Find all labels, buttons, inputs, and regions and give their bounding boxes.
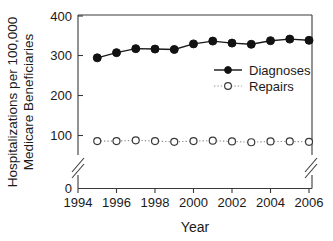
- x-tick-label-1994: 1994: [64, 195, 93, 210]
- y-axis-break-left: [72, 155, 84, 178]
- data-point: [171, 138, 178, 145]
- data-point: [190, 40, 198, 48]
- y-tick-labels: 400 300 200 100 0: [50, 9, 72, 196]
- y-tick-label-0: 0: [65, 181, 72, 196]
- data-point: [306, 138, 313, 145]
- x-tick-label-1998: 1998: [141, 195, 170, 210]
- chart-legend: Diagnoses Repairs: [214, 63, 311, 94]
- data-point: [248, 139, 255, 146]
- data-point: [151, 45, 159, 53]
- data-point: [209, 37, 217, 45]
- x-tick-label-2006: 2006: [295, 195, 324, 210]
- data-point: [113, 49, 121, 57]
- y-tick-label-400: 400: [50, 9, 72, 24]
- data-point: [267, 37, 275, 45]
- data-point: [286, 138, 293, 145]
- y-axis-title: Hospitalizations per 100,000 Medicare Be…: [5, 17, 36, 187]
- legend-label-repairs: Repairs: [249, 79, 294, 94]
- data-point: [113, 138, 120, 145]
- x-tick-label-2000: 2000: [179, 195, 208, 210]
- chart-figure: Hospitalizations per 100,000 Medicare Be…: [0, 0, 333, 241]
- y-tick-label-100: 100: [50, 128, 72, 143]
- y-tick-label-200: 200: [50, 88, 72, 103]
- legend-marker-open-circle: [225, 83, 232, 90]
- data-point: [286, 35, 294, 43]
- y-axis-break-right: [305, 155, 317, 178]
- series-line-diagnoses: [97, 39, 309, 58]
- data-point: [170, 45, 178, 53]
- data-point: [247, 40, 255, 48]
- x-axis-title: Year: [181, 219, 210, 235]
- legend-item-diagnoses: Diagnoses: [214, 63, 311, 78]
- data-point: [132, 137, 139, 144]
- data-point: [305, 36, 313, 44]
- data-point: [132, 45, 140, 53]
- x-tick-label-2002: 2002: [218, 195, 247, 210]
- y-axis-ticks: [78, 16, 83, 136]
- x-tick-label-2004: 2004: [256, 195, 285, 210]
- x-axis-ticks: [78, 189, 309, 194]
- legend-item-repairs: Repairs: [214, 79, 294, 94]
- legend-label-diagnoses: Diagnoses: [249, 63, 311, 78]
- data-point: [152, 138, 159, 145]
- x-tick-labels: 1994 1996 1998 2000 2002 2004 2006: [64, 195, 324, 210]
- data-point: [267, 138, 274, 145]
- legend-marker-filled-circle: [225, 67, 232, 74]
- data-point: [209, 137, 216, 144]
- data-point: [229, 138, 236, 145]
- y-tick-label-300: 300: [50, 48, 72, 63]
- line-chart: Hospitalizations per 100,000 Medicare Be…: [0, 0, 333, 241]
- data-point: [94, 138, 101, 145]
- y-axis-title-line1: Hospitalizations per 100,000: [5, 17, 20, 187]
- series-line-repairs: [97, 140, 309, 142]
- y-axis-title-line2: Medicare Beneficiaries: [21, 33, 36, 170]
- data-point: [93, 54, 101, 62]
- series-markers-diagnoses: [93, 35, 313, 62]
- data-point: [228, 39, 236, 47]
- data-point: [190, 138, 197, 145]
- x-tick-label-1996: 1996: [102, 195, 131, 210]
